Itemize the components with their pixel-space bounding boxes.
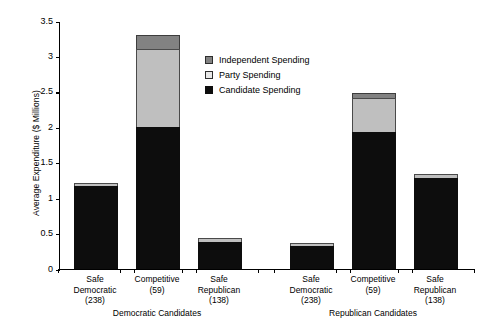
category-label-line: Safe	[390, 274, 480, 285]
bar-segment-candidate	[198, 242, 242, 269]
legend-label-party: Party Spending	[219, 70, 281, 80]
legend-item-party-spending: Party Spending	[205, 67, 310, 82]
bar-2	[136, 35, 180, 269]
bar-3	[198, 238, 242, 269]
x-tick-mark	[258, 269, 259, 273]
y-tick-mark	[56, 163, 60, 164]
bar-segment-party	[352, 98, 396, 133]
bar-4	[290, 243, 334, 269]
y-tick-label: 3.5	[40, 16, 53, 26]
y-tick-label: 0.5	[40, 228, 53, 238]
y-tick-label: 3	[48, 51, 53, 61]
y-tick-label: 2	[48, 122, 53, 132]
legend-swatch-independent-icon	[205, 56, 213, 64]
category-label-line: Republican	[174, 285, 264, 296]
x-tick-mark	[58, 269, 59, 273]
x-tick-mark	[274, 269, 275, 273]
x-tick-mark	[196, 269, 197, 273]
category-label-line: (238)	[50, 295, 140, 306]
chart-legend: Independent Spending Party Spending Cand…	[205, 52, 310, 97]
category-label-line: Republican	[390, 285, 480, 296]
y-tick-label: 1.5	[40, 157, 53, 167]
category-label-line: Safe	[174, 274, 264, 285]
legend-swatch-party-icon	[205, 71, 213, 79]
y-tick-label: 0	[48, 264, 53, 274]
y-tick-mark	[56, 22, 60, 23]
x-tick-mark	[336, 269, 337, 273]
bar-segment-candidate	[74, 186, 118, 269]
category-label-line: (138)	[174, 295, 264, 306]
x-tick-mark	[398, 269, 399, 273]
legend-swatch-candidate-icon	[205, 86, 213, 94]
bar-6	[414, 174, 458, 269]
group-label-2: Republican Candidates	[293, 308, 453, 318]
bar-segment-party	[136, 49, 180, 128]
bar-5	[352, 93, 396, 269]
x-tick-mark	[474, 269, 475, 273]
bar-segment-candidate	[352, 132, 396, 269]
category-label-3: SafeRepublican(138)	[174, 274, 264, 306]
legend-label-candidate: Candidate Spending	[219, 85, 301, 95]
x-tick-mark	[350, 269, 351, 273]
legend-item-independent-spending: Independent Spending	[205, 52, 310, 67]
bar-1	[74, 183, 118, 269]
legend-label-independent: Independent Spending	[219, 55, 310, 65]
group-label-1: Democratic Candidates	[77, 308, 237, 318]
x-tick-mark	[182, 269, 183, 273]
y-tick-mark	[56, 128, 60, 129]
x-tick-mark	[134, 269, 135, 273]
y-tick-label: 1	[48, 193, 53, 203]
y-tick-label: 2.5	[40, 86, 53, 96]
category-label-line: (138)	[390, 295, 480, 306]
expenditure-bar-chart: Average Expenditure ($ Millions) 00.511.…	[0, 0, 492, 333]
bar-segment-independent	[136, 35, 180, 48]
y-tick-mark	[56, 92, 60, 93]
x-tick-mark	[412, 269, 413, 273]
category-label-6: SafeRepublican(138)	[390, 274, 480, 306]
y-axis-title: Average Expenditure ($ Millions)	[31, 53, 41, 253]
x-tick-mark	[120, 269, 121, 273]
bar-segment-candidate	[414, 178, 458, 269]
bar-segment-candidate	[136, 127, 180, 269]
y-tick-mark	[56, 199, 60, 200]
y-tick-mark	[56, 57, 60, 58]
bar-segment-candidate	[290, 246, 334, 269]
category-label-line: (238)	[266, 295, 356, 306]
legend-item-candidate-spending: Candidate Spending	[205, 82, 310, 97]
y-tick-mark	[56, 234, 60, 235]
